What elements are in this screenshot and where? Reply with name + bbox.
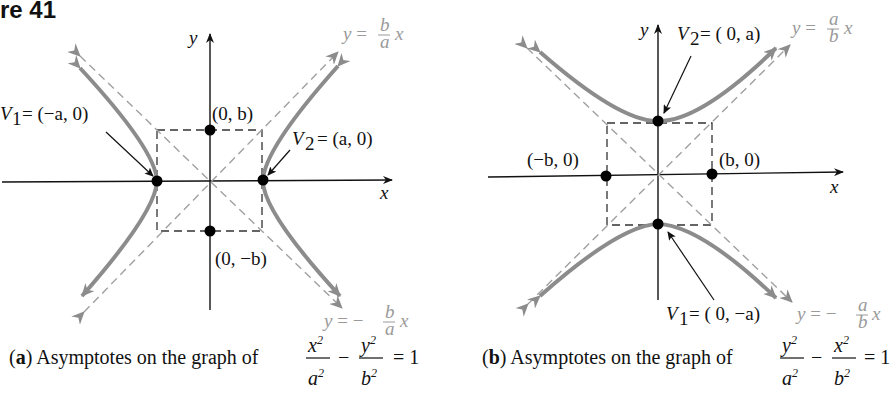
- point-b-0: [707, 169, 718, 180]
- svg-text:= 1: = 1: [864, 346, 890, 368]
- svg-text:1: 1: [679, 308, 689, 329]
- panel-b: y x (−b, 0) (b, 0) V 2 = ( 0, a) V 1 = (…: [482, 8, 890, 389]
- svg-text:V: V: [677, 23, 691, 44]
- svg-text:(b) Asymptotes on the graph of: (b) Asymptotes on the graph of: [482, 346, 733, 369]
- svg-text:2: 2: [690, 28, 700, 49]
- svg-text:b2: b2: [361, 366, 377, 389]
- svg-text:a2: a2: [308, 366, 324, 389]
- svg-text:x: x: [871, 303, 881, 324]
- svg-text:−: −: [811, 346, 822, 368]
- vertex-label-v2: V 2 = (a, 0): [292, 128, 373, 154]
- caption-a: (a) Asymptotes on the graph of x2 a2 − y…: [9, 333, 419, 389]
- svg-text:(a) Asymptotes on the graph of: (a) Asymptotes on the graph of: [9, 346, 259, 369]
- svg-text:a: a: [380, 31, 390, 52]
- x-axis: [2, 180, 392, 182]
- svg-text:x: x: [843, 17, 853, 38]
- svg-text:y = −: y = −: [795, 303, 836, 324]
- vertex-v1: [653, 219, 664, 230]
- svg-text:x: x: [394, 23, 404, 44]
- svg-text:= (a, 0): = (a, 0): [317, 128, 373, 150]
- svg-text:b: b: [858, 311, 868, 332]
- asymptote-negative: [527, 48, 792, 302]
- panel-a: y x (0, b) (0, −b) V 1 = (−a, 0) V 2 = (…: [0, 14, 419, 389]
- svg-text:V: V: [666, 303, 680, 324]
- asymptote-label-positive: y = b a x: [341, 14, 404, 52]
- vertex-label-v2: V 2 = ( 0, a): [677, 23, 760, 49]
- hyperbola-figure: y x (0, b) (0, −b) V 1 = (−a, 0) V 2 = (…: [0, 0, 896, 397]
- vertex-v2: [258, 175, 269, 186]
- x-axis-label: x: [379, 182, 389, 203]
- asymptote-label-positive: y = a b x: [790, 8, 853, 46]
- vertex-v2: [653, 116, 664, 127]
- svg-text:y2: y2: [780, 333, 797, 357]
- svg-text:2: 2: [305, 133, 315, 154]
- svg-text:y = −: y = −: [322, 310, 363, 331]
- svg-text:y =: y =: [790, 17, 816, 38]
- point-label-0-neg-b: (0, −b): [215, 248, 267, 270]
- svg-text:y2: y2: [359, 333, 376, 357]
- vertex-v1: [152, 176, 163, 187]
- x-axis: [488, 172, 843, 177]
- point-label-0-b: (0, b): [212, 103, 253, 125]
- svg-text:1: 1: [12, 108, 22, 129]
- svg-text:−: −: [338, 346, 349, 368]
- svg-text:x: x: [399, 310, 409, 331]
- y-axis-label: y: [638, 19, 649, 40]
- svg-text:a: a: [385, 318, 395, 339]
- svg-text:x2: x2: [307, 333, 323, 356]
- point-0-neg-b: [205, 226, 216, 237]
- svg-text:b: b: [829, 25, 839, 46]
- point-0-b: [205, 125, 216, 136]
- svg-text:= 1: = 1: [393, 346, 419, 368]
- caption-b: (b) Asymptotes on the graph of y2 a2 − x…: [482, 333, 890, 389]
- svg-text:x2: x2: [833, 333, 849, 356]
- asymptote-label-negative: y = − a b x: [795, 294, 881, 332]
- vertex-label-v1: V 1 = (−a, 0): [0, 103, 88, 129]
- svg-text:= ( 0, a): = ( 0, a): [700, 23, 760, 45]
- x-axis-label: x: [829, 176, 839, 197]
- point-label-b-0: (b, 0): [719, 149, 760, 171]
- svg-text:= ( 0, −a): = ( 0, −a): [689, 303, 760, 325]
- point-neg-b-0: [601, 171, 612, 182]
- y-axis-label: y: [187, 27, 198, 48]
- v2-pointer: [664, 56, 691, 113]
- svg-text:b2: b2: [834, 366, 850, 389]
- svg-text:= (−a, 0): = (−a, 0): [22, 103, 88, 125]
- svg-text:V: V: [292, 128, 306, 149]
- svg-text:y =: y =: [341, 23, 367, 44]
- vertex-label-v1: V 1 = ( 0, −a): [666, 303, 760, 329]
- point-label-neg-b-0: (−b, 0): [527, 149, 579, 171]
- svg-text:a2: a2: [782, 366, 798, 389]
